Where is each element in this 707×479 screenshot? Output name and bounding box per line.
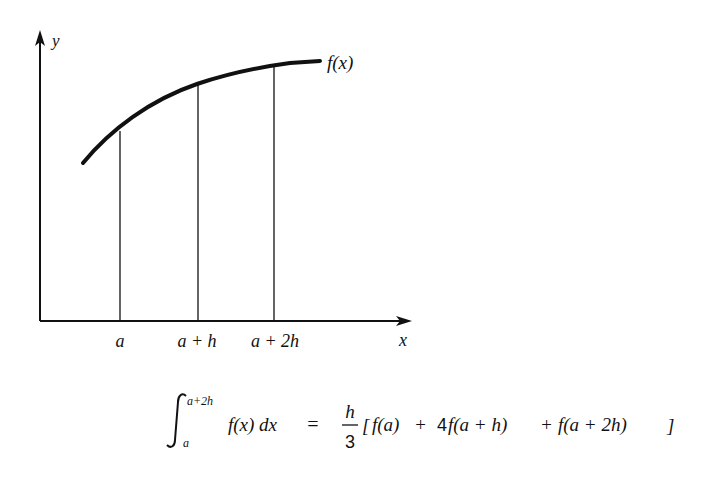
equals-sign: = [306, 413, 320, 435]
simpsons-formula: a+2h a f(x) dx = h 3 [ f(a) + 4 f(a + h)… [167, 394, 674, 452]
function-curve [83, 61, 320, 163]
tick-labels: a a + h a + 2h [116, 331, 300, 351]
tick-label-a-plus-h: a + h [177, 331, 216, 351]
term-f-a-plus-2h: f(a + 2h) [558, 414, 627, 436]
bracket-open: [ [362, 415, 371, 436]
plus-1: + [414, 414, 427, 435]
bracket-close: ] [666, 415, 674, 436]
simpsons-rule-figure: y x f(x) a a + h a + 2h a+2h a f(x) dx =… [0, 0, 707, 479]
fraction-numerator: h [345, 401, 355, 422]
x-axis-label: x [398, 330, 407, 350]
coefficient-4: 4 [437, 415, 447, 435]
integrand: f(x) dx [228, 414, 278, 436]
plus-2: + [540, 414, 553, 435]
fraction-denominator: 3 [345, 432, 355, 452]
tick-label-a-plus-2h: a + 2h [251, 331, 299, 351]
term-f-a-plus-h: f(a + h) [448, 414, 507, 436]
curve-label: f(x) [327, 52, 353, 74]
integral-upper-limit: a+2h [187, 394, 213, 408]
term-f-a: f(a) [372, 414, 399, 436]
y-axis-label: y [50, 31, 60, 50]
tick-label-a: a [116, 331, 125, 351]
ordinates [120, 66, 274, 321]
integral-lower-limit: a [183, 436, 189, 450]
